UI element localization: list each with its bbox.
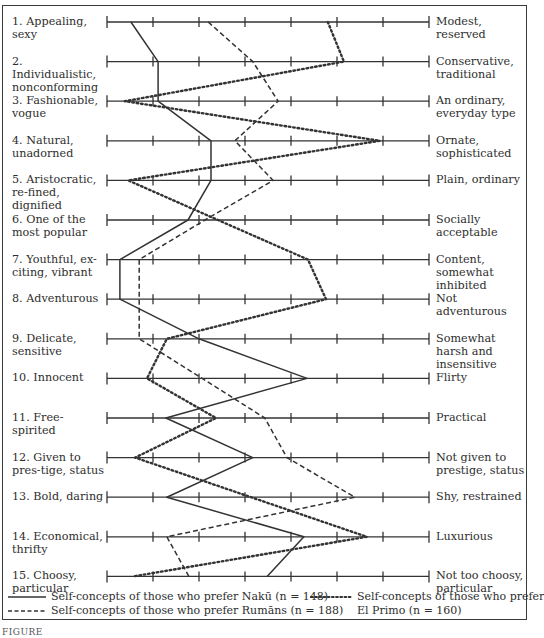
- left-anchor-label: 13. Bold, daring: [12, 490, 107, 503]
- scale-axis-1: [107, 16, 429, 28]
- scale-axis-14: [107, 531, 429, 543]
- left-anchor-label: 4. Natural, unadorned: [12, 134, 107, 160]
- left-anchor-label: 1. Appealing, sexy: [12, 15, 107, 41]
- left-anchor-label: 7. Youthful, ex-citing, vibrant: [12, 253, 107, 279]
- scale-axis-12: [107, 452, 429, 464]
- scale-axis-8: [107, 293, 429, 305]
- right-anchor-label: Plain, ordinary: [436, 173, 531, 186]
- scale-axis-9: [107, 333, 429, 345]
- right-anchor-label: Conservative, traditional: [436, 55, 531, 81]
- left-anchor-label: 12. Given to pres-tige, status: [12, 451, 107, 477]
- left-anchor-label: 5. Aristocratic, re-fined, dignified: [12, 173, 107, 212]
- left-anchor-label: 11. Free-spirited: [12, 411, 107, 437]
- left-anchor-label: 2. Individualistic, nonconforming: [12, 55, 107, 94]
- right-anchor-label: Luxurious: [436, 530, 531, 543]
- right-anchor-label: Socially acceptable: [436, 213, 531, 239]
- scale-axis-6: [107, 214, 429, 226]
- right-anchor-label: Shy, restrained: [436, 490, 531, 503]
- right-anchor-label: Flirty: [436, 371, 531, 384]
- right-anchor-label: Modest, reserved: [436, 15, 531, 41]
- scale-axis-4: [107, 135, 429, 147]
- left-anchor-label: 10. Innocent: [12, 371, 107, 384]
- left-anchor-label: 6. One of the most popular: [12, 213, 107, 239]
- right-anchor-label: Ornate, sophisticated: [436, 134, 531, 160]
- figure-caption: FIGURE: [2, 627, 43, 637]
- right-anchor-label: Practical: [436, 411, 531, 424]
- scale-axis-13: [107, 491, 429, 503]
- left-anchor-label: 15. Choosy, particular: [12, 569, 107, 595]
- left-anchor-label: 9. Delicate, sensitive: [12, 332, 107, 358]
- right-anchor-label: Not given to prestige, status: [436, 451, 531, 477]
- scale-axis-7: [107, 254, 429, 266]
- right-anchor-label: Somewhat harsh and insensitive: [436, 332, 531, 371]
- left-anchor-label: 14. Economical, thrifty: [12, 530, 107, 556]
- right-anchor-label: Content, somewhat inhibited: [436, 253, 531, 292]
- left-anchor-label: 8. Adventurous: [12, 292, 107, 305]
- left-anchor-label: 3. Fashionable, vogue: [12, 94, 107, 120]
- right-anchor-label: Not too choosy, particular: [436, 569, 531, 595]
- right-anchor-label: Not adventurous: [436, 292, 531, 318]
- right-anchor-label: An ordinary, everyday type: [436, 94, 531, 120]
